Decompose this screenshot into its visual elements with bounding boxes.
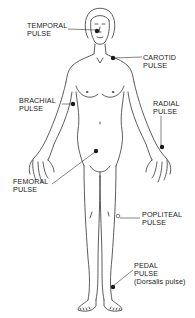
head [85, 8, 115, 44]
temporal-leader-line [68, 29, 96, 30]
pedal-pulse-dot [111, 285, 115, 289]
popliteal-pulse-label: POPLITEAL PULSE [142, 211, 182, 227]
pulse-points-diagram: TEMPORAL PULSE CAROTID PULSE BRACHIAL PU… [0, 0, 195, 318]
femoral-pulse-label: FEMORAL PULSE [13, 178, 48, 194]
pedal-pulse-label: PEDAL PULSE (Dorsalis pulse) [134, 262, 186, 286]
femoral-pulse-dot [94, 149, 98, 153]
torso [66, 44, 134, 176]
temporal-pulse-label: TEMPORAL PULSE [27, 22, 67, 38]
carotid-pulse-label: CAROTID PULSE [143, 54, 176, 70]
brachial-pulse-label: BRACHIAL PULSE [19, 97, 56, 113]
femoral-leader-line [52, 152, 95, 184]
temporal-pulse-dot [95, 29, 99, 33]
popliteal-pulse-open-dot [116, 214, 120, 218]
pedal-leader-line [113, 270, 133, 286]
radial-pulse-dot [160, 145, 164, 149]
brachial-pulse-dot [71, 102, 75, 106]
radial-pulse-label: RADIAL PULSE [153, 100, 180, 116]
carotid-pulse-dot [111, 56, 115, 60]
legs [78, 166, 122, 311]
carotid-leader-line [113, 57, 142, 58]
